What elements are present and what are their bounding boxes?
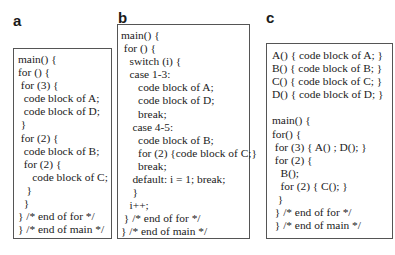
code-line	[272, 101, 392, 114]
code-line: }	[18, 118, 111, 131]
code-line: main() {	[18, 53, 111, 66]
code-line: D() { code block of D; }	[272, 88, 392, 101]
code-line: code block of C;	[18, 171, 111, 184]
code-line: code block of A;	[121, 81, 249, 94]
code-line: } /* end of main */	[18, 223, 111, 236]
panel-c-label: c	[266, 10, 274, 25]
code-line: }	[18, 184, 111, 197]
code-line: B() { code block of B; }	[272, 62, 392, 75]
code-line: for (2) { C(); }	[272, 180, 392, 193]
code-line: A() { code block of A; }	[272, 49, 392, 62]
code-line: for (2) {code block of C;}	[121, 147, 249, 160]
code-line: code block of B;	[121, 134, 249, 147]
code-line: for (2) {	[18, 158, 111, 171]
code-line: } /* end of main */	[272, 219, 392, 232]
code-line: break;	[121, 108, 249, 121]
code-line: code block of A;	[18, 92, 111, 105]
code-line: break;	[121, 160, 249, 173]
code-line: }	[18, 197, 111, 210]
code-line: B();	[272, 167, 392, 180]
code-line: case 4-5:	[121, 121, 249, 134]
code-line: for (2) {	[18, 132, 111, 145]
code-line: } /* end of for */	[272, 206, 392, 219]
code-line: }	[272, 193, 392, 206]
code-line: i++;	[121, 199, 249, 212]
code-line: } /* end of for */	[121, 212, 249, 225]
panel-a-label: a	[13, 13, 21, 28]
code-line: code block of B;	[18, 145, 111, 158]
code-line: for (3) { A() ; D(); }	[272, 141, 392, 154]
code-line: for () {	[121, 42, 249, 55]
code-line: switch (i) {	[121, 55, 249, 68]
code-box-b: main() { for () { switch (i) { case 1-3:…	[117, 24, 250, 239]
code-line: main() {	[272, 114, 392, 127]
code-line: } /* end of for */	[18, 210, 111, 223]
code-line: for() {	[272, 128, 392, 141]
code-box-c: A() { code block of A; } B() { code bloc…	[266, 43, 393, 239]
code-line: code block of D;	[18, 105, 111, 118]
code-line: } /* end of main */	[121, 225, 249, 238]
code-line: for (2) {	[272, 154, 392, 167]
panel-b-label: b	[118, 10, 127, 25]
code-line: for (3) {	[18, 79, 111, 92]
code-line: }	[121, 186, 249, 199]
code-line: case 1-3:	[121, 68, 249, 81]
code-line: default: i = 1; break;	[121, 173, 249, 186]
code-line: code block of D;	[121, 94, 249, 107]
code-line: C() { code block of C; }	[272, 75, 392, 88]
code-box-a: main() { for () { for (3) { code block o…	[13, 48, 112, 239]
code-line: main() {	[121, 29, 249, 42]
code-line: for () {	[18, 66, 111, 79]
